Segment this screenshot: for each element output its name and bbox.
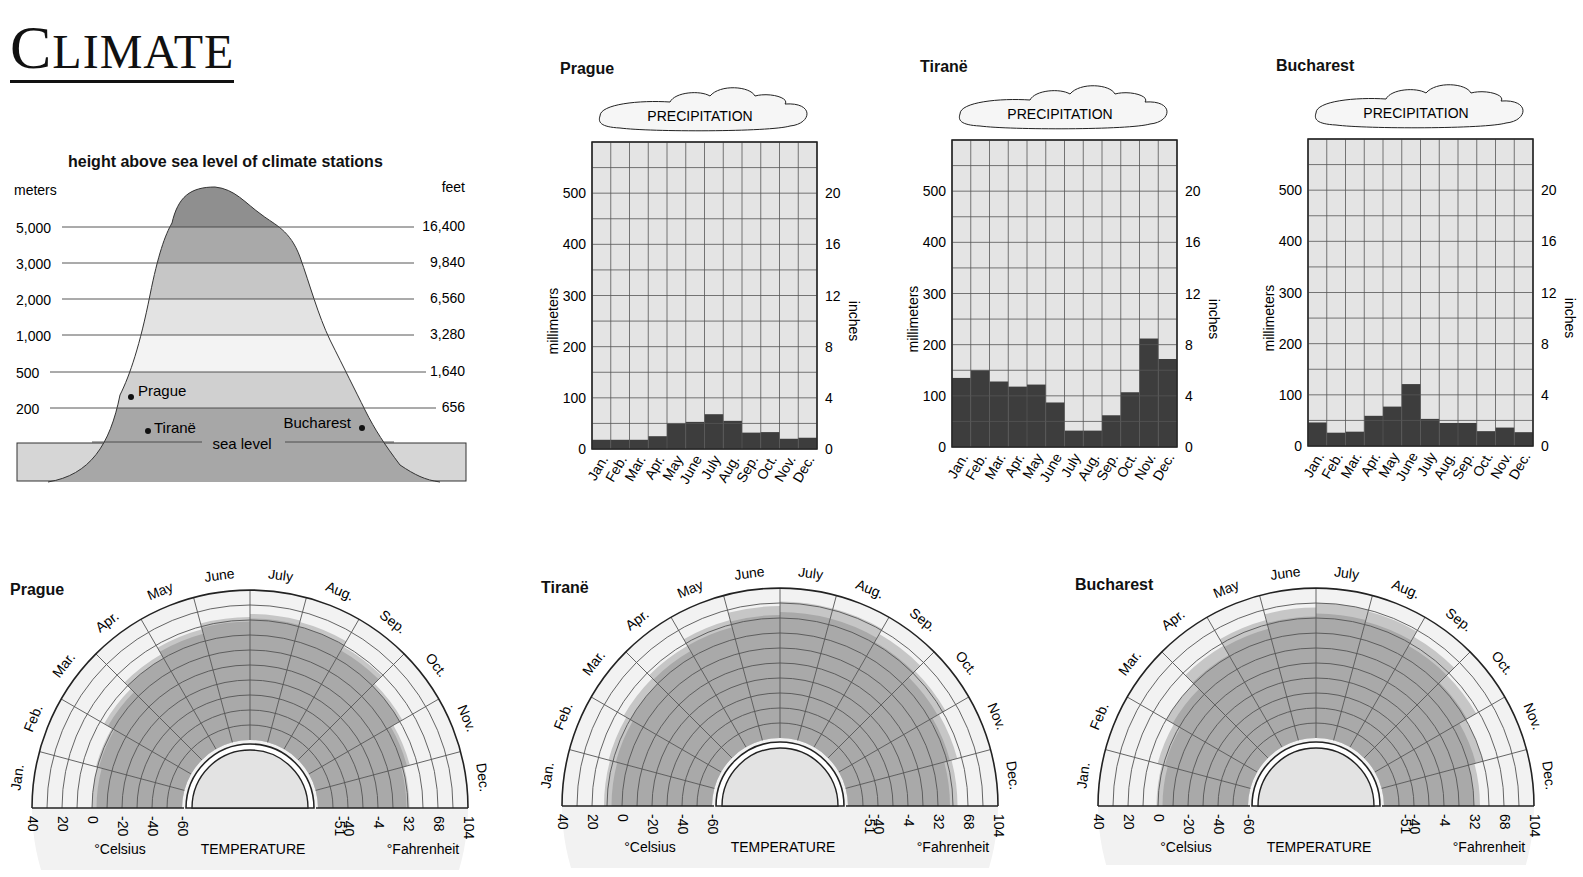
month-label: Sep. [907,604,940,634]
inch-axis-label: inches [846,301,862,341]
mm-tick: 300 [563,288,587,304]
inch-tick: 12 [1541,285,1557,301]
celsius-label: °Celsius [1160,839,1212,855]
meters-label: meters [14,182,57,198]
precip-bar [971,370,990,447]
cloud-label: PRECIPITATION [1007,106,1112,122]
precip-bar [723,421,742,449]
mm-tick: 100 [923,388,947,404]
fahrenheit-tick: 68 [961,814,977,830]
station-dot-bucharest [359,425,365,431]
precip-bar [1102,415,1121,447]
temperature-label: TEMPERATURE [201,841,306,857]
precip-bar [952,378,971,447]
celsius-tick: 20 [585,814,601,830]
mm-tick: 500 [923,183,947,199]
temp-chart-tirane: Jan.Feb.Mar.Apr.MayJuneJulyAug.Sep.Oct.N… [530,568,1040,868]
month-label: Aug. [854,576,887,602]
precip-chart-prague: PRECIPITATION5004003002001000201612840mi… [540,80,880,490]
month-label: June [1269,565,1301,583]
month-label: Nov. [454,702,479,734]
celsius-tick: 20 [55,816,71,832]
inch-tick: 20 [1185,183,1201,199]
precip-bar [1458,423,1477,446]
svg-text:3,280: 3,280 [430,326,465,342]
temp-chart-prague: Jan.Feb.Mar.Apr.MayJuneJulyAug.Sep.Oct.N… [0,570,510,870]
precip-bar [611,440,630,449]
month-label: Aug. [324,578,357,604]
altitude-title: height above sea level of climate statio… [68,153,383,171]
mm-tick: 0 [938,439,946,455]
inch-tick: 16 [1185,234,1201,250]
fahrenheit-tick: 32 [1467,814,1483,830]
inch-tick: 20 [825,185,841,201]
month-label: Jan. [7,763,26,791]
precip-bar [686,422,705,449]
svg-text:2,000: 2,000 [16,292,51,308]
temperature-label: TEMPERATURE [1267,839,1372,855]
inch-tick: 0 [1185,439,1193,455]
month-label: July [267,570,294,585]
month-label: Oct. [952,648,980,678]
fahrenheit-tick: -40 [871,814,887,834]
mm-tick: 200 [1279,336,1303,352]
fahrenheit-tick: 104 [991,814,1007,838]
fahrenheit-tick: 32 [931,814,947,830]
precip-bar [1496,428,1515,446]
inch-tick: 4 [1185,388,1193,404]
month-label: Apr. [1158,606,1187,634]
month-label: Feb. [20,702,46,734]
month-label: Feb. [550,700,576,732]
temperature-label: TEMPERATURE [731,839,836,855]
precip-title-bucharest: Bucharest [1276,57,1354,75]
inch-tick: 8 [1185,337,1193,353]
fahrenheit-tick: 68 [1497,814,1513,830]
month-label: Nov. [1520,700,1545,732]
month-label: June [733,568,765,583]
precip-bar [761,432,780,449]
altitude-diagram: meters feet 5,000 3,000 2,000 1,000 500 … [0,175,480,490]
mm-tick: 400 [923,234,947,250]
month-label: Dec. [1539,760,1559,791]
station-label-prague: Prague [138,382,186,399]
month-label: Feb. [1086,700,1112,732]
inch-tick: 0 [1541,438,1549,454]
precip-bar [1140,339,1159,447]
precip-chart-tirane: PRECIPITATION5004003002001000201612840mi… [900,78,1240,488]
svg-text:1,640: 1,640 [430,363,465,379]
celsius-tick: 40 [25,816,41,832]
fahrenheit-label: °Fahrenheit [387,841,460,857]
precip-bar [1327,433,1346,446]
month-label: Sep. [377,606,410,636]
precip-title-tirane: Tiranë [920,58,968,76]
mm-tick: 500 [563,185,587,201]
precip-bar [742,433,761,449]
precip-bar [1346,432,1365,446]
month-label: Dec. [473,762,493,793]
celsius-tick: -60 [175,816,191,836]
svg-text:1,000: 1,000 [16,328,51,344]
celsius-tick: 0 [1151,814,1167,822]
celsius-tick: -20 [1181,814,1197,834]
celsius-tick: 0 [85,816,101,824]
inch-tick: 20 [1541,182,1557,198]
fahrenheit-tick: -40 [341,816,357,836]
fahrenheit-tick: -4 [371,816,387,829]
mm-tick: 0 [1294,438,1302,454]
month-label: July [1333,565,1360,583]
precip-bar [1439,423,1458,446]
feet-label: feet [442,179,465,195]
month-label: Nov. [984,700,1009,732]
mm-tick: 400 [1279,233,1303,249]
feet-ticks: 16,400 9,840 6,560 3,280 1,640 656 [422,218,465,415]
celsius-tick: -20 [645,814,661,834]
month-label: June [203,570,235,585]
precip-bar [990,382,1009,447]
mm-tick: 100 [1279,387,1303,403]
sea-level-label: sea level [212,435,271,452]
mm-tick: 200 [923,337,947,353]
precip-bar [592,440,611,449]
month-label: Mar. [1115,647,1144,678]
month-label: Oct. [1488,648,1516,678]
celsius-tick: 40 [1091,814,1107,830]
